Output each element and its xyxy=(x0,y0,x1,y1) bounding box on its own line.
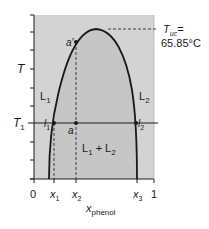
x-tick-label-x2: x2 xyxy=(71,188,82,202)
phase-diagram: T T1 L1 L2 L1 + L2 a a′ l1 l2 Tuc= 65.85… xyxy=(0,0,209,229)
point-a xyxy=(74,121,78,125)
y-axis-ticks xyxy=(30,15,34,179)
x-axis-ticks xyxy=(34,179,154,183)
x-tick-label-x3: x3 xyxy=(132,188,143,202)
x-axis-label: xphenol xyxy=(85,202,116,217)
y-axis-label: T xyxy=(17,62,26,76)
point-a-prime xyxy=(74,40,78,44)
tuc-label: Tuc= xyxy=(163,23,184,37)
x-tick-label-1: 1 xyxy=(151,188,157,200)
x-tick-label-0: 0 xyxy=(30,188,36,200)
x-tick-label-x1: x1 xyxy=(49,188,60,202)
tuc-value: 65.85°C xyxy=(161,37,201,49)
t1-label: T1 xyxy=(13,116,25,132)
point-a-label: a xyxy=(68,125,74,136)
point-a-prime-label: a′ xyxy=(66,37,75,48)
point-l1 xyxy=(52,121,56,125)
